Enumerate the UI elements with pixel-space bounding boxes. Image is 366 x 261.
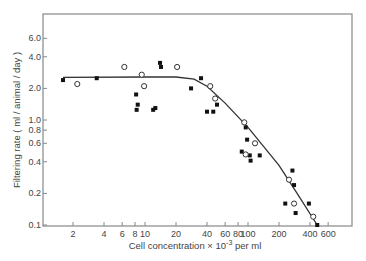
open-data-point <box>311 214 316 219</box>
y-axis-ticks: 0.10.20.40.60.81.02.04.06.0 <box>28 33 47 230</box>
open-data-point <box>242 120 247 125</box>
filled-data-point <box>159 65 163 69</box>
y-tick-label: 1.0 <box>28 115 41 125</box>
filled-data-point <box>95 76 99 80</box>
filled-data-point <box>307 202 311 206</box>
filled-data-point <box>61 78 65 82</box>
filled-data-point <box>215 103 219 107</box>
filled-data-point <box>244 125 248 129</box>
open-data-point <box>286 177 291 182</box>
open-data-point <box>252 141 257 146</box>
x-tick-label: 100 <box>240 229 255 239</box>
filled-data-point <box>135 108 139 112</box>
x-tick-label: 40 <box>202 229 212 239</box>
y-tick-label: 0.2 <box>28 188 41 198</box>
data-points <box>61 61 319 227</box>
x-tick-label: 2 <box>70 229 75 239</box>
filled-data-point <box>158 61 162 65</box>
filled-data-point <box>189 86 193 90</box>
y-tick-label: 0.1 <box>28 220 41 230</box>
filled-data-point <box>249 159 253 163</box>
y-tick-label: 2.0 <box>28 83 41 93</box>
open-data-point <box>122 64 127 69</box>
filled-data-point <box>245 138 249 142</box>
x-axis-title: Cell concentration × 10-3 per ml <box>129 239 262 251</box>
open-data-point <box>243 152 248 157</box>
filled-data-point <box>290 169 294 173</box>
y-tick-label: 6.0 <box>28 33 41 43</box>
filled-data-point <box>283 202 287 206</box>
x-tick-label: 400 <box>302 229 317 239</box>
filtering-rate-chart: 24681020406080100200400600 0.10.20.40.60… <box>0 0 366 261</box>
plot-frame <box>43 14 352 226</box>
y-tick-label: 0.4 <box>28 157 41 167</box>
open-data-point <box>213 96 218 101</box>
filled-data-point <box>134 92 138 96</box>
filled-data-point <box>315 223 319 227</box>
x-tick-label: 10 <box>140 229 150 239</box>
open-data-point <box>208 84 213 89</box>
x-axis-ticks: 24681020406080100200400600 <box>70 222 335 239</box>
filled-data-point <box>211 110 215 114</box>
y-tick-label: 0.8 <box>28 125 41 135</box>
filled-data-point <box>136 103 140 107</box>
x-tick-label: 600 <box>321 229 336 239</box>
filled-data-point <box>294 211 298 215</box>
open-data-point <box>141 84 146 89</box>
filled-data-point <box>258 153 262 157</box>
x-tick-label: 8 <box>133 229 138 239</box>
x-tick-label: 60 <box>220 229 230 239</box>
open-data-point <box>139 72 144 77</box>
y-tick-label: 0.6 <box>28 138 41 148</box>
open-data-point <box>75 81 80 86</box>
open-data-point <box>291 201 296 206</box>
open-data-point <box>175 64 180 69</box>
y-axis-title: Filtering rate ( ml / animal / day ) <box>11 52 22 188</box>
y-tick-label: 4.0 <box>28 52 41 62</box>
x-tick-label: 4 <box>102 229 107 239</box>
fitted-curve <box>63 77 317 225</box>
x-tick-label: 20 <box>171 229 181 239</box>
filled-data-point <box>151 108 155 112</box>
x-tick-label: 200 <box>271 229 286 239</box>
x-tick-label: 6 <box>120 229 125 239</box>
filled-data-point <box>292 183 296 187</box>
filled-data-point <box>205 110 209 114</box>
filled-data-point <box>199 76 203 80</box>
